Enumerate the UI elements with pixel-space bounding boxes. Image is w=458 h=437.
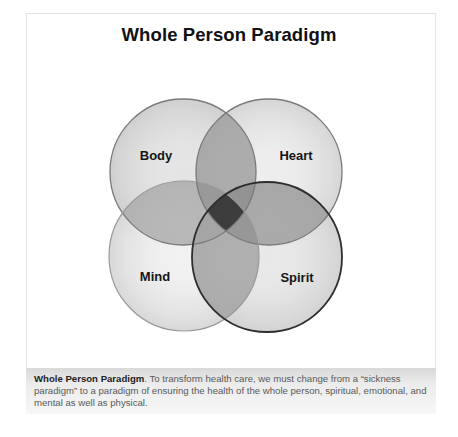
label-heart: Heart [279, 148, 313, 163]
label-spirit: Spirit [280, 270, 314, 285]
caption-title: Whole Person Paradigm [34, 373, 144, 384]
label-mind: Mind [140, 269, 170, 284]
label-body: Body [140, 148, 173, 163]
figure-caption: Whole Person Paradigm. To transform heal… [26, 368, 436, 414]
